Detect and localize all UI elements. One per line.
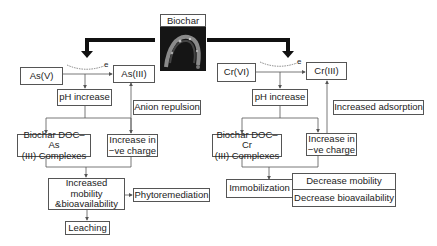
ph-increase-cr: pH increase xyxy=(252,89,308,106)
decrease-bioavailability-box: Decrease bioavailability xyxy=(292,189,396,207)
cr-complex-line1: Biochar DOC–Cr xyxy=(213,130,281,151)
as-complex-line2: (III) Complexes xyxy=(22,151,86,162)
cr-iii-box: Cr(III) xyxy=(306,62,347,80)
biochar-image xyxy=(160,27,206,71)
anion-repulsion-box: Anion repulsion xyxy=(133,100,201,115)
as-iii-box: As(III) xyxy=(113,65,155,83)
cr-complex-box: Biochar DOC–Cr (III) Complexes xyxy=(212,134,282,157)
phytoremediation-box: Phytoremediation xyxy=(133,188,210,202)
cr-charge-line2: −ve charge xyxy=(308,145,355,156)
electron-label-as: e xyxy=(104,60,108,69)
biochar-title: Biochar xyxy=(160,14,206,27)
cr-charge-box: Increase in −ve charge xyxy=(306,133,357,156)
cr-complex-line2: (III) Complexes xyxy=(215,151,279,162)
increased-adsorption-box: Increased adsorption xyxy=(333,100,424,115)
leaching-box: Leaching xyxy=(65,221,110,235)
electron-label-cr: e xyxy=(297,57,301,66)
as-mobility-box: Increased mobility &bioavailability xyxy=(48,178,125,210)
as-complex-line1: Biochar DOC–As xyxy=(18,130,90,151)
as-charge-box: Increase in −ve charge xyxy=(107,134,158,157)
as-charge-line2: −ve charge xyxy=(109,146,156,157)
as-mobility-line2: &bioavailability xyxy=(55,199,118,210)
cr-charge-line1: Increase in xyxy=(308,134,354,145)
as-charge-line1: Increase in xyxy=(109,135,155,146)
decrease-mobility-box: Decrease mobility xyxy=(292,173,396,190)
immobilization-box: Immobilization xyxy=(226,179,293,198)
as-complex-box: Biochar DOC–As (III) Complexes xyxy=(17,134,91,157)
cr-vi-box: Cr(VI) xyxy=(217,63,256,82)
ph-increase-as: pH increase xyxy=(57,89,112,106)
as-v-box: As(V) xyxy=(20,67,63,85)
as-mobility-line1: Increased mobility xyxy=(49,178,124,199)
